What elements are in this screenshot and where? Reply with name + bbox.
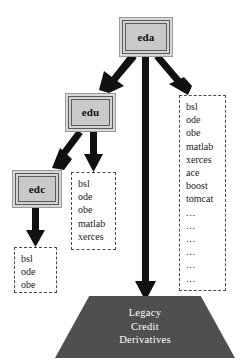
dependency-item: ... [186,232,220,245]
arrow-edc-to-deps-edc [26,208,45,247]
dependency-item: ode [78,190,110,203]
dependency-item: obe [78,203,110,216]
arrow-eda-to-platform [135,56,156,301]
module-box-edc-inner-border: edc [15,173,59,205]
module-box-eda[interactable]: eda [119,17,173,57]
module-label-edu: edu [82,107,100,118]
arrow-eda-to-edu [99,52,136,93]
dependency-list-edu: bslodeobematlabxerces [71,172,116,250]
dependency-item: matlab [186,140,220,153]
dependency-list-eda: bslodeobematlabxercesaceboosttomcat.....… [179,95,226,291]
dependency-item: ... [186,219,220,232]
diagram-canvas: eda edu edc bslodeobematlabxercesaceboos… [0,0,248,362]
arrow-edu-to-deps-edu [84,132,103,172]
dependency-item: ... [186,258,220,271]
dependency-item: xerces [78,230,110,243]
dependency-item: ... [186,272,220,285]
module-label-eda: eda [137,32,154,43]
dependency-item: bsl [186,100,220,113]
arrow-edu-to-edc [52,132,80,170]
dependency-item: bsl [78,177,110,190]
module-box-edu-core: edu [71,99,110,126]
dependency-item: boost [186,179,220,192]
module-label-edc: edc [29,184,45,195]
module-box-edc[interactable]: edc [12,170,62,208]
dependency-item: ace [186,166,220,179]
dependency-item: ... [186,245,220,258]
dependency-item: xerces [186,153,220,166]
arrow-eda-to-deps-eda [157,56,192,95]
dependency-list-edc: bslodeobe [14,247,57,293]
dependency-item: bsl [21,252,51,265]
dependency-item: obe [21,278,51,291]
dependency-item: ode [21,265,51,278]
module-box-eda-inner-border: eda [122,20,170,54]
dependency-item: obe [186,126,220,139]
module-box-edc-core: edc [18,176,56,202]
module-box-edu[interactable]: edu [65,93,116,132]
dependency-item: matlab [78,217,110,230]
dependency-item: tomcat [186,192,220,205]
dependency-item: ... [186,206,220,219]
legacy-platform: Legacy Credit Derivatives [55,296,235,358]
platform-trapezoid-shape [55,296,235,358]
module-box-eda-core: eda [125,23,167,51]
dependency-item: ode [186,113,220,126]
module-box-edu-inner-border: edu [68,96,113,129]
